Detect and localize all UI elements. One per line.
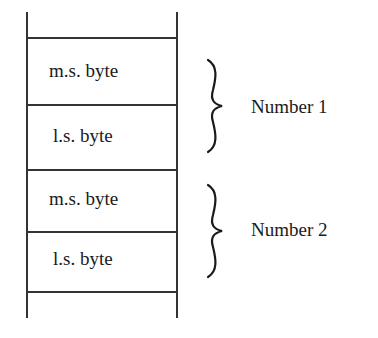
cell-divider bbox=[27, 231, 178, 233]
cell-divider bbox=[27, 291, 178, 293]
cell-divider bbox=[27, 37, 178, 39]
cell-label: l.s. byte bbox=[53, 248, 113, 270]
group-label-number-2: Number 2 bbox=[251, 219, 328, 241]
right-brace-icon bbox=[200, 58, 230, 154]
right-brace-icon bbox=[200, 183, 230, 279]
cell-divider bbox=[27, 169, 178, 171]
cell-divider bbox=[27, 104, 178, 106]
cell-label: l.s. byte bbox=[53, 125, 113, 147]
cell-label: m.s. byte bbox=[49, 60, 118, 82]
group-label-number-1: Number 1 bbox=[251, 96, 328, 118]
cell-label: m.s. byte bbox=[49, 188, 118, 210]
stack-left-border bbox=[26, 12, 28, 318]
stack-right-border bbox=[176, 12, 178, 318]
